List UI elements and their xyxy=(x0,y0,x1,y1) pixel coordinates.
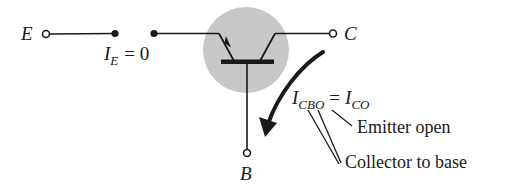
emitter-open-annotation: Emitter open xyxy=(357,117,450,137)
collector-terminal xyxy=(330,30,337,37)
base-bar xyxy=(221,60,274,65)
emitter-terminal xyxy=(43,31,50,38)
leakage-current-label: ICBO=ICO xyxy=(291,87,370,112)
pointer-line-o xyxy=(332,110,352,126)
transistor-body-disc xyxy=(203,7,289,93)
pointer-line-c xyxy=(308,110,339,164)
collector-to-base-annotation: Collector to base xyxy=(345,152,467,172)
arrowhead-icon xyxy=(259,117,277,137)
base-label: B xyxy=(240,163,252,184)
pointer-line-b xyxy=(318,110,341,163)
collector-label: C xyxy=(344,23,357,44)
emitter-current-label: IE= 0 xyxy=(103,43,149,68)
base-terminal xyxy=(244,150,251,157)
transistor-icbo-diagram: E C B IE= 0 ICBO=ICO Emitter open Collec… xyxy=(0,0,526,186)
open-contact-left xyxy=(111,30,118,37)
emitter-wire-left xyxy=(50,34,116,35)
emitter-label: E xyxy=(20,23,33,44)
